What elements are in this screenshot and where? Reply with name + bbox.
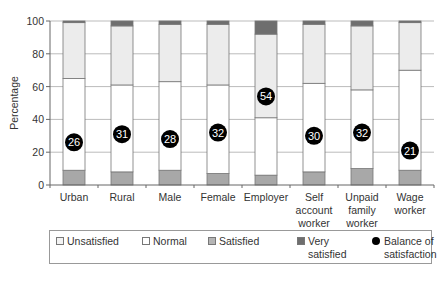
- bar-segment-very-satisfied: [303, 21, 325, 24]
- legend-item-very-satisfied: Verysatisfied: [297, 235, 347, 261]
- bar-segment-unsatisfied: [159, 170, 181, 185]
- x-tick-label: Female: [200, 191, 235, 203]
- balance-value: 26: [68, 136, 80, 148]
- balance-value: 28: [164, 133, 176, 145]
- legend-label-line2: satisfaction: [384, 248, 437, 260]
- x-tick-label: Employer: [244, 191, 289, 203]
- balance-value: 21: [404, 145, 416, 157]
- balance-value: 32: [212, 127, 224, 139]
- x-tick-label: Wage: [396, 191, 423, 203]
- y-tick-label: 20: [32, 146, 44, 158]
- bar-segment-very-satisfied: [111, 21, 133, 26]
- bar-segment-very-satisfied: [207, 21, 229, 24]
- legend-label-block: Verysatisfied: [308, 235, 347, 261]
- bar-segment-satisfied: [399, 23, 421, 71]
- legend-swatch-unsatisfied: [56, 237, 64, 245]
- bar-segment-satisfied: [303, 24, 325, 83]
- bar-segment-satisfied: [351, 26, 373, 90]
- bar-segment-very-satisfied: [399, 21, 421, 23]
- legend-label: Unsatisfied: [67, 235, 119, 248]
- bar-segment-normal: [255, 118, 277, 175]
- bar-segment-satisfied: [63, 23, 85, 79]
- legend-item-satisfied: Satisfied: [208, 235, 259, 248]
- bar-segment-very-satisfied: [255, 21, 277, 34]
- legend-item-normal: Normal: [142, 235, 187, 248]
- x-tick-label: worker: [393, 204, 426, 216]
- bar-segment-very-satisfied: [159, 21, 181, 24]
- y-tick-label: 0: [38, 179, 44, 191]
- bars: [63, 21, 421, 185]
- y-tick-label: 60: [32, 81, 44, 93]
- legend-label-block: Balance ofsatisfaction: [384, 235, 437, 261]
- bar-segment-very-satisfied: [63, 21, 85, 23]
- x-tick-label: Unpaid: [345, 191, 378, 203]
- balance-value: 32: [356, 127, 368, 139]
- bar-segment-normal: [159, 82, 181, 171]
- balance-value: 54: [260, 90, 272, 102]
- legend-swatch-very-satisfied: [297, 237, 305, 245]
- x-tick-label: Male: [159, 191, 182, 203]
- legend: Unsatisfied Normal Satisfied Verysatisfi…: [49, 230, 432, 264]
- y-tick-label: 80: [32, 48, 44, 60]
- bar-segment-satisfied: [207, 24, 229, 85]
- legend-label: Normal: [153, 235, 187, 248]
- x-tick-label: worker: [345, 217, 378, 229]
- y-tick-label: 100: [26, 15, 44, 27]
- legend-label-line2: satisfied: [308, 248, 347, 260]
- legend-item-unsatisfied: Unsatisfied: [56, 235, 119, 248]
- legend-swatch-satisfied: [208, 237, 216, 245]
- x-tick-label: family: [348, 204, 376, 216]
- bar-segment-very-satisfied: [351, 21, 373, 26]
- legend-swatch-normal: [142, 237, 150, 245]
- y-axis-title: Percentage: [8, 76, 20, 130]
- legend-label: Satisfied: [219, 235, 259, 248]
- bar-segment-unsatisfied: [207, 174, 229, 185]
- bar-segment-unsatisfied: [111, 172, 133, 185]
- legend-label: Very: [308, 235, 329, 247]
- bar-segment-unsatisfied: [351, 169, 373, 185]
- bar-segment-normal: [63, 78, 85, 170]
- bar-segment-satisfied: [111, 26, 133, 85]
- bar-segment-unsatisfied: [255, 175, 277, 185]
- bar-segment-unsatisfied: [399, 170, 421, 185]
- legend-item-balance: Balance ofsatisfaction: [372, 235, 437, 261]
- y-tick-label: 40: [32, 113, 44, 125]
- balance-value: 31: [116, 128, 128, 140]
- x-tick-label: account: [296, 204, 333, 216]
- bar-segment-unsatisfied: [63, 170, 85, 185]
- x-tick-label: Urban: [60, 191, 89, 203]
- x-axis-labels: UrbanRuralMaleFemaleEmployerSelfaccountw…: [60, 191, 427, 229]
- legend-label: Balance of: [384, 235, 434, 247]
- balance-value: 30: [308, 130, 320, 142]
- x-tick-label: Rural: [109, 191, 134, 203]
- bar-segment-satisfied: [159, 24, 181, 81]
- x-tick-label: worker: [297, 217, 330, 229]
- gridlines: [50, 21, 434, 152]
- x-tick-label: Self: [305, 191, 323, 203]
- bar-segment-unsatisfied: [303, 172, 325, 185]
- filled-circle-icon: [372, 237, 380, 245]
